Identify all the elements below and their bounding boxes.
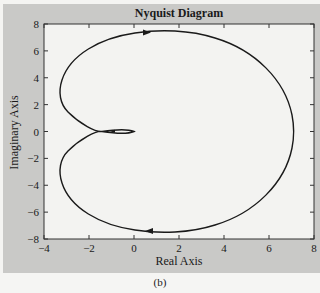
y-tick-label: 8 xyxy=(34,18,40,30)
x-tick-label: 0 xyxy=(131,242,137,254)
y-tick-label: 6 xyxy=(34,45,40,57)
y-axis-label: Imaginary Axis xyxy=(7,93,22,173)
x-tick-label: 6 xyxy=(266,242,272,254)
x-tick-label: −4 xyxy=(38,242,50,254)
plot-area xyxy=(44,24,314,239)
y-tick-label: 0 xyxy=(34,126,40,138)
y-tick-label: 4 xyxy=(34,72,40,84)
x-tick-label: −2 xyxy=(83,242,95,254)
x-tick-label: 8 xyxy=(311,242,317,254)
y-tick-label: −6 xyxy=(27,206,39,218)
x-axis-label: Real Axis xyxy=(44,254,314,269)
y-tick-label: −2 xyxy=(27,152,39,164)
y-tick-label: −4 xyxy=(27,179,39,191)
nyquist-plot: −4−202468−8−6−4−202468 xyxy=(0,0,320,293)
figure-caption: (b) xyxy=(0,276,320,288)
y-tick-label: −8 xyxy=(27,233,39,245)
x-tick-label: 4 xyxy=(221,242,227,254)
y-tick-label: 2 xyxy=(34,99,40,111)
x-tick-label: 2 xyxy=(176,242,182,254)
